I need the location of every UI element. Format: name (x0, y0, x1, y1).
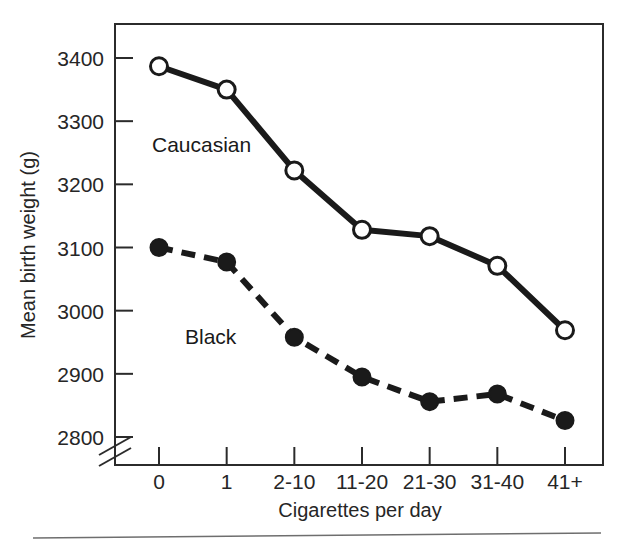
data-point-black (489, 386, 506, 403)
x-tick-label: 31-40 (470, 470, 524, 493)
figure-container: 2800290030003100320033003400 012-1011-20… (0, 0, 627, 550)
data-point-caucasian (489, 257, 506, 274)
x-axis-tick-labels: 012-1011-2021-3031-4041+ (153, 470, 583, 493)
y-tick-label: 3300 (57, 110, 104, 133)
x-axis-title: Cigarettes per day (278, 499, 441, 521)
data-point-black (421, 393, 438, 410)
data-point-black (151, 239, 168, 256)
data-point-caucasian (218, 81, 235, 98)
y-tick-label: 3200 (57, 173, 104, 196)
y-tick-label: 2900 (57, 363, 104, 386)
data-point-black (218, 254, 235, 271)
y-axis-title: Mean birth weight (g) (17, 151, 39, 339)
y-tick-label: 2800 (57, 426, 104, 449)
y-tick-label: 3400 (57, 47, 104, 70)
y-tick-label: 3000 (57, 300, 104, 323)
x-axis-ticks (159, 447, 565, 465)
data-point-black (557, 412, 574, 429)
x-tick-label: 0 (153, 470, 165, 493)
x-tick-label: 2-10 (273, 470, 315, 493)
series-label-caucasian: Caucasian (152, 133, 251, 156)
birth-weight-line-chart: 2800290030003100320033003400 012-1011-20… (0, 0, 627, 550)
data-point-caucasian (557, 322, 574, 339)
x-tick-label: 11-20 (336, 470, 388, 493)
data-point-caucasian (421, 228, 438, 245)
series-label-black: Black (185, 325, 237, 348)
x-tick-label: 1 (221, 470, 233, 493)
y-axis-tick-labels: 2800290030003100320033003400 (57, 47, 104, 449)
series-caucasian (151, 58, 574, 339)
caucasian-markers (151, 58, 574, 339)
plot-frame (115, 24, 603, 465)
data-point-caucasian (354, 221, 371, 238)
caucasian-line-path (159, 66, 565, 330)
data-point-caucasian (286, 162, 303, 179)
data-point-black (354, 368, 371, 385)
x-tick-label: 41+ (547, 470, 583, 493)
x-tick-label: 21-30 (403, 470, 457, 493)
data-point-caucasian (151, 58, 168, 75)
y-axis-ticks (115, 58, 133, 437)
data-point-black (286, 329, 303, 346)
caption-divider-rule (33, 533, 601, 538)
y-tick-label: 3100 (57, 237, 104, 260)
